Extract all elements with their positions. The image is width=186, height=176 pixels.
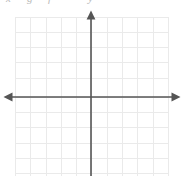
figure-background bbox=[0, 0, 186, 176]
coordinate-plane-svg bbox=[0, 0, 186, 176]
coordinate-grid-screenshot: x g f y bbox=[0, 0, 186, 176]
coordinate-grid-figure bbox=[0, 0, 186, 176]
